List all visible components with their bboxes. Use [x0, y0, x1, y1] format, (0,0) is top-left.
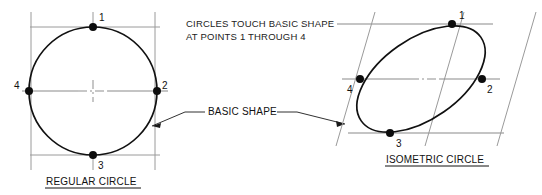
basic-shape-label: BASIC SHAPE	[208, 106, 277, 117]
tangency-point-4-marker	[25, 87, 33, 95]
isometric-circle-caption: ISOMETRIC CIRCLE	[386, 154, 484, 165]
technical-drawing-figure: 1 2 3 4 REGULAR CIRCLE CIRCLES TOUCH BAS…	[0, 0, 542, 195]
iso-tangency-point-3-marker	[386, 129, 394, 137]
iso-point-label-1: 1	[459, 10, 465, 21]
note-line-2: AT POINTS 1 THROUGH 4	[186, 31, 306, 42]
note-line-1: CIRCLES TOUCH BASIC SHAPE	[186, 18, 334, 29]
regular-point-label-4: 4	[14, 80, 20, 91]
iso-point-label-2: 2	[487, 84, 493, 95]
regular-point-label-3: 3	[98, 160, 104, 171]
tangency-point-1-marker	[89, 23, 97, 31]
iso-tangency-point-2-marker	[478, 75, 486, 83]
tangency-point-3-marker	[89, 151, 97, 159]
iso-point-label-4: 4	[347, 84, 353, 95]
regular-circle-caption: REGULAR CIRCLE	[46, 176, 137, 187]
iso-point-label-3: 3	[396, 138, 402, 149]
iso-tangency-point-4-marker	[356, 75, 364, 83]
tangency-point-2-marker	[153, 87, 161, 95]
iso-tangency-point-1-marker	[448, 20, 456, 28]
regular-point-label-1: 1	[99, 12, 105, 23]
regular-point-label-2: 2	[162, 80, 168, 91]
